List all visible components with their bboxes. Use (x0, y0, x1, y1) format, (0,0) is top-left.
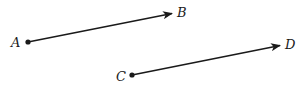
point-a-label: A (10, 35, 20, 50)
vector-ab-line (28, 14, 172, 43)
point-b-label: B (176, 5, 187, 20)
vector-cd: C D (116, 37, 296, 84)
point-a-dot (25, 39, 30, 44)
point-c-dot (129, 72, 134, 77)
vector-cd-line (132, 46, 280, 76)
point-d-label: D (284, 37, 296, 52)
point-c-label: C (116, 69, 126, 84)
vector-ab: A B (10, 5, 187, 50)
vector-diagram: A B C D (0, 0, 306, 92)
diagram-svg: A B C D (0, 0, 306, 92)
